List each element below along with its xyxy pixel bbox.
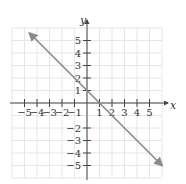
x-tick-label: 1 — [96, 107, 102, 118]
x-tick-label: 5 — [146, 107, 152, 118]
x-tick-label: 4 — [134, 107, 140, 118]
y-tick-label: 3 — [75, 60, 81, 71]
y-tick-label: 4 — [75, 48, 81, 59]
y-tick-label: −3 — [66, 135, 81, 146]
x-tick-label: 3 — [121, 107, 127, 118]
x-tick-label: −1 — [67, 107, 82, 118]
y-tick-label: −2 — [66, 123, 81, 134]
y-axis-label: y — [79, 14, 87, 27]
y-tick-label: 5 — [75, 35, 81, 46]
y-tick-label: −5 — [66, 160, 81, 171]
x-axis-label: x — [170, 99, 177, 112]
axes — [10, 20, 168, 180]
y-tick-label: 1 — [75, 85, 81, 96]
y-tick-label: −4 — [66, 148, 81, 159]
coordinate-plane: −5−4−3−2−11234554321−2−3−4−5 y x — [0, 0, 186, 184]
